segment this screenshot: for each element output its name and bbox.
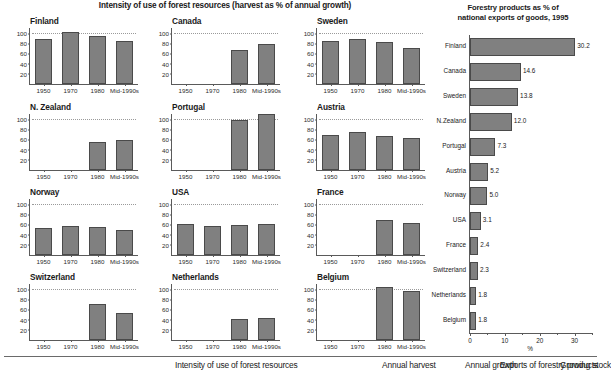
x-tick-mark	[213, 340, 214, 342]
x-tick-label: Mid-1990s	[252, 173, 281, 180]
y-tick-label: 20	[162, 156, 169, 163]
y-tick-label: 80	[162, 211, 169, 218]
exports-x-tick-label: 20	[536, 337, 543, 344]
exports-x-tick	[575, 333, 576, 336]
exports-category-label: Austria	[446, 167, 466, 174]
x-tick-label: Mid-1990s	[252, 343, 281, 350]
x-tick-mark	[331, 255, 332, 257]
y-tick-label: 80	[162, 40, 169, 47]
panel-title: Netherlands	[172, 272, 219, 282]
bar	[258, 44, 275, 84]
bar	[231, 120, 248, 170]
y-tick-label: 80	[307, 296, 314, 303]
exports-category-label: Finland	[445, 42, 466, 49]
reference-line-100	[32, 289, 136, 290]
x-tick-mark	[385, 84, 386, 86]
bar	[403, 291, 420, 340]
exports-bar-row: USA3.1	[470, 212, 592, 230]
y-tick-label: 60	[162, 221, 169, 228]
bar	[322, 135, 339, 170]
bar	[376, 42, 393, 84]
exports-category-label: Belgium	[443, 316, 466, 323]
exports-value-label: 3.1	[483, 216, 492, 223]
x-tick-label: 1950	[37, 258, 51, 265]
x-tick-label: Mid-1990s	[252, 258, 281, 265]
panel-title: Finland	[30, 16, 59, 26]
x-tick-mark	[98, 84, 99, 86]
x-tick-mark	[71, 340, 72, 342]
exports-category-label: Switzerland	[433, 266, 466, 273]
exports-bar	[470, 138, 495, 156]
y-tick-label: 60	[162, 50, 169, 57]
x-tick-label: 1970	[206, 258, 220, 265]
plot-area: 20406080100195019701980Mid-1990s	[29, 199, 138, 256]
x-tick-label: 1980	[91, 173, 105, 180]
exports-value-label: 14.6	[523, 67, 535, 74]
y-tick-label: 40	[162, 316, 169, 323]
plot-area: 20406080100195019701980Mid-1990s	[171, 114, 280, 171]
x-tick-label: 1970	[351, 173, 365, 180]
x-tick-mark	[240, 84, 241, 86]
exports-bar	[470, 88, 518, 106]
x-tick-label: 1970	[64, 258, 78, 265]
bar	[258, 318, 275, 340]
x-tick-mark	[213, 255, 214, 257]
y-tick-label: 60	[20, 221, 27, 228]
y-tick-label: 60	[307, 50, 314, 57]
y-tick-label: 60	[162, 136, 169, 143]
country-panel-portugal: Portugal20406080100195019701980Mid-1990s	[146, 102, 287, 186]
plot-area: 20406080100195019701980Mid-1990s	[171, 199, 280, 256]
exports-x-axis-title: %	[469, 345, 591, 352]
x-tick-label: 1950	[179, 87, 193, 94]
x-tick-label: 1980	[233, 343, 247, 350]
bar	[89, 142, 106, 171]
y-tick-label: 100	[159, 30, 169, 37]
exports-x-tick-label: 30	[571, 337, 578, 344]
reference-line-100	[174, 204, 278, 205]
exports-plot-area: Finland30.2Canada14.6Sweden13.8N.Zealand…	[469, 35, 592, 334]
panel-title: USA	[172, 187, 189, 197]
x-tick-mark	[412, 340, 413, 342]
bar	[258, 114, 275, 170]
y-tick-label: 100	[17, 116, 27, 123]
exports-x-tick	[505, 333, 506, 336]
x-tick-label: 1970	[206, 87, 220, 94]
y-tick-label: 60	[307, 221, 314, 228]
x-tick-label: Mid-1990s	[110, 173, 139, 180]
y-tick-label: 20	[162, 326, 169, 333]
x-tick-mark	[186, 255, 187, 257]
x-tick-label: 1980	[378, 258, 392, 265]
exports-value-label: 13.8	[520, 92, 532, 99]
main-chart-title: Intensity of use of forest resources (ha…	[60, 1, 390, 10]
y-tick-label: 60	[20, 50, 27, 57]
x-tick-mark	[267, 170, 268, 172]
y-tick-label: 100	[159, 116, 169, 123]
exports-value-label: 5.0	[489, 191, 498, 198]
x-tick-label: 1950	[324, 258, 338, 265]
panel-title: Sweden	[317, 16, 348, 26]
bar	[204, 226, 221, 255]
small-multiples-panel: Intensity of use of forest resources (ha…	[0, 0, 425, 352]
exports-x-tick-minor	[592, 333, 593, 335]
exports-bar-row: Switzerland2.3	[470, 262, 592, 280]
exports-title-line-2: national exports of goods, 1995	[425, 13, 601, 23]
panel-title: Switzerland	[30, 272, 75, 282]
y-tick-label: 80	[162, 296, 169, 303]
plot-area: 20406080100195019701980Mid-1990s	[29, 284, 138, 341]
x-tick-label: 1950	[179, 258, 193, 265]
plot-area: 20406080100195019701980Mid-1990s	[29, 114, 138, 171]
x-tick-label: 1970	[351, 258, 365, 265]
x-tick-label: 1950	[179, 343, 193, 350]
x-tick-label: 1950	[37, 173, 51, 180]
x-tick-label: 1970	[206, 173, 220, 180]
x-tick-mark	[358, 84, 359, 86]
bar	[258, 224, 275, 255]
x-tick-mark	[44, 170, 45, 172]
exports-bar	[470, 63, 521, 81]
bar	[89, 227, 106, 256]
exports-bar-row: N.Zealand12.0	[470, 113, 592, 131]
country-panel-sweden: Sweden20406080100195019701980Mid-1990s	[291, 16, 432, 100]
exports-category-label: France	[446, 241, 466, 248]
x-tick-mark	[98, 255, 99, 257]
bar	[376, 136, 393, 170]
